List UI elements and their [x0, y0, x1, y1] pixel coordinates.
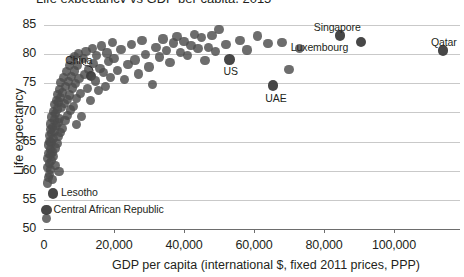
data-point[interactable] — [242, 45, 251, 54]
data-point[interactable] — [253, 31, 262, 40]
chart-container: Life expectancy vs GDP per capita, 2015 … — [0, 0, 464, 277]
data-point[interactable] — [58, 124, 67, 133]
data-point[interactable] — [158, 34, 167, 43]
x-tick-label: 60,000 — [214, 238, 294, 252]
data-point[interactable] — [183, 51, 192, 60]
data-point[interactable] — [86, 96, 95, 105]
data-point[interactable] — [54, 167, 63, 176]
plot-area: ChinaSingaporeLuxembourgQatarUSUAELesoth… — [44, 25, 460, 229]
data-point[interactable] — [148, 80, 157, 89]
y-tick-label: 80 — [2, 46, 36, 60]
point-label-china: China — [65, 54, 92, 66]
data-point[interactable] — [137, 36, 146, 45]
y-axis-label: Life expectancy — [12, 88, 26, 175]
data-point[interactable] — [214, 25, 223, 34]
point-label-central-african-republic: Central African Republic — [53, 203, 163, 215]
data-point[interactable] — [356, 37, 366, 47]
data-point[interactable] — [284, 65, 293, 74]
point-label-luxembourg: Luxembourg — [291, 41, 348, 53]
x-tick-label: 100,000 — [354, 238, 434, 252]
x-tick-label: 40,000 — [144, 238, 224, 252]
y-tick-label: 55 — [2, 192, 36, 206]
data-point[interactable] — [141, 50, 150, 59]
data-point[interactable] — [83, 84, 92, 93]
data-point[interactable] — [116, 45, 125, 54]
gridline — [44, 200, 460, 201]
data-point[interactable] — [48, 188, 58, 198]
point-label-singapore: Singapore — [314, 21, 361, 33]
gridline — [44, 112, 460, 113]
gridline — [44, 142, 460, 143]
point-label-us: US — [224, 65, 238, 77]
data-point[interactable] — [130, 55, 139, 64]
data-point[interactable] — [48, 175, 57, 184]
data-point[interactable] — [127, 40, 136, 49]
gridline — [44, 171, 460, 172]
data-point[interactable] — [92, 51, 101, 60]
data-point[interactable] — [211, 47, 220, 56]
data-point[interactable] — [49, 152, 58, 161]
data-point[interactable] — [165, 58, 174, 67]
point-label-lesotho: Lesotho — [61, 186, 98, 198]
data-point[interactable] — [113, 66, 122, 75]
y-tick-label: 50 — [2, 221, 36, 235]
data-point[interactable] — [101, 82, 110, 91]
chart-title: Life expectancy vs GDP per capita, 2015 — [36, 0, 456, 3]
data-point[interactable] — [151, 43, 160, 52]
x-axis-line — [44, 229, 460, 230]
gridline — [44, 25, 460, 26]
data-point[interactable] — [106, 73, 115, 82]
point-label-qatar: Qatar — [431, 36, 457, 48]
data-point[interactable] — [108, 38, 117, 47]
data-point[interactable] — [197, 33, 206, 42]
point-label-uae: UAE — [265, 92, 286, 104]
data-point[interactable] — [42, 214, 51, 223]
data-point[interactable] — [277, 38, 286, 47]
data-point[interactable] — [221, 40, 230, 49]
x-tick-label: 20,000 — [74, 238, 154, 252]
x-tick-label: 0 — [4, 238, 84, 252]
data-point[interactable] — [263, 39, 272, 48]
data-point[interactable] — [109, 54, 118, 63]
data-point[interactable] — [224, 54, 234, 64]
data-point[interactable] — [200, 56, 209, 65]
data-point[interactable] — [144, 62, 153, 71]
data-point[interactable] — [235, 36, 244, 45]
data-point[interactable] — [268, 80, 278, 90]
data-point[interactable] — [72, 120, 81, 129]
x-tick-label: 80,000 — [284, 238, 364, 252]
data-point[interactable] — [193, 44, 202, 53]
y-tick-label: 85 — [2, 17, 36, 31]
data-point[interactable] — [69, 102, 78, 111]
data-point[interactable] — [134, 69, 143, 78]
data-point[interactable] — [41, 205, 51, 215]
x-axis-label: GDP per capita (international $, fixed 2… — [112, 258, 420, 272]
data-point[interactable] — [91, 76, 100, 85]
data-point[interactable] — [77, 112, 86, 121]
